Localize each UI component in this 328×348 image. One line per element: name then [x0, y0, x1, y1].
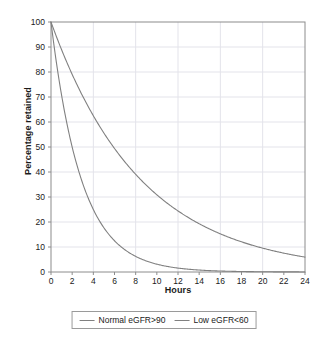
legend-label: Normal eGFR>90 — [99, 315, 166, 325]
x-axis-title: Hours — [51, 285, 305, 295]
legend-item[interactable]: Normal eGFR>90 — [80, 315, 166, 325]
y-tick-label: 10 — [19, 243, 45, 252]
y-tick-label: 0 — [19, 268, 45, 277]
y-axis-title: Percentage retained — [23, 51, 33, 211]
chart-plot-area: 0102030405060708090100 02468101214161820… — [0, 0, 328, 300]
chart-svg — [0, 0, 328, 300]
y-tick-label: 100 — [19, 18, 45, 27]
y-tick-label: 20 — [19, 218, 45, 227]
chart-legend: Normal eGFR>90Low eGFR<60 — [72, 311, 257, 329]
legend-line-icon — [174, 320, 189, 321]
legend-line-icon — [80, 320, 95, 321]
legend-item[interactable]: Low eGFR<60 — [174, 315, 248, 325]
legend-label: Low eGFR<60 — [193, 315, 248, 325]
chart-figure: 0102030405060708090100 02468101214161820… — [0, 0, 328, 348]
